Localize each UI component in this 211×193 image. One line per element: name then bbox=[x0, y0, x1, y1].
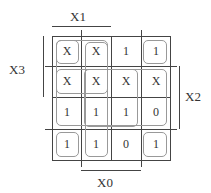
cell: 1 bbox=[141, 129, 171, 160]
cell: X bbox=[52, 36, 82, 67]
label-x0: X0 bbox=[97, 175, 113, 191]
cell: 0 bbox=[141, 97, 171, 128]
cell: 1 bbox=[81, 129, 111, 160]
label-x1: X1 bbox=[70, 9, 86, 25]
cell: X bbox=[81, 66, 111, 97]
cell: 1 bbox=[52, 97, 82, 128]
x1-bar bbox=[52, 26, 111, 27]
cell: 1 bbox=[111, 97, 141, 128]
cell: X bbox=[81, 36, 111, 67]
x0-bar bbox=[81, 170, 141, 171]
cell: 1 bbox=[52, 129, 82, 160]
label-x2: X2 bbox=[185, 89, 201, 105]
cell: 1 bbox=[141, 36, 171, 67]
label-x3: X3 bbox=[9, 62, 25, 78]
cell: X bbox=[111, 66, 141, 97]
cell: 1 bbox=[81, 97, 111, 128]
x3-bar bbox=[43, 36, 44, 97]
cell: X bbox=[141, 66, 171, 97]
cell: X bbox=[52, 66, 82, 97]
x2-bar bbox=[179, 66, 180, 129]
cell: 0 bbox=[111, 129, 141, 160]
cell: 1 bbox=[111, 36, 141, 67]
